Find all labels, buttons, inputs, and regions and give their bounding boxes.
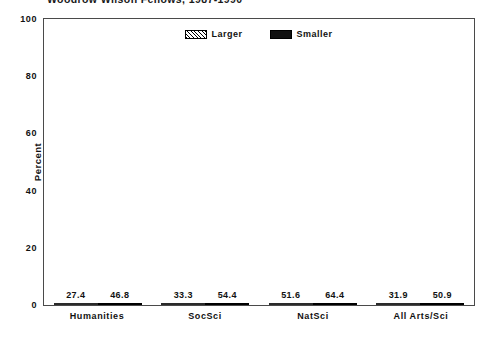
y-axis-tick: 100 [20, 14, 44, 24]
bar-smaller[interactable]: 54.4 [205, 303, 249, 305]
bar-group-natsci: 51.6 64.4 [259, 19, 367, 305]
bar-value-label: 50.9 [433, 290, 452, 300]
y-axis-tick: 0 [31, 300, 44, 310]
y-axis-tick: 60 [26, 128, 44, 138]
bar-group-humanities: 27.4 46.8 [44, 19, 152, 305]
chart-title: Woodrow Wilson Fellows, 1987-1990 [47, 0, 243, 5]
bar-larger[interactable]: 33.3 [161, 303, 205, 305]
bar-groups: 27.4 46.8 33.3 54.4 51.6 [44, 19, 474, 305]
bar-group-socsci: 33.3 54.4 [152, 19, 260, 305]
bar-pair: 31.9 50.9 [376, 303, 464, 305]
bar-value-label: 51.6 [281, 290, 300, 300]
bar-value-label: 64.4 [325, 290, 344, 300]
bar-smaller[interactable]: 46.8 [98, 303, 142, 305]
x-axis-tick-label: NatSci [259, 311, 367, 321]
y-axis-tick: 40 [26, 186, 44, 196]
x-axis-tick-label: SocSci [151, 311, 259, 321]
bar-value-label: 27.4 [66, 290, 85, 300]
y-axis-tick: 20 [26, 243, 44, 253]
bar-pair: 27.4 46.8 [54, 303, 142, 305]
bar-larger[interactable]: 31.9 [376, 303, 420, 305]
bar-pair: 33.3 54.4 [161, 303, 249, 305]
x-axis-tick-label: Humanities [43, 311, 151, 321]
bar-value-label: 31.9 [389, 290, 408, 300]
x-axis-labels: Humanities SocSci NatSci All Arts/Sci [43, 311, 475, 321]
bar-value-label: 46.8 [110, 290, 129, 300]
bar-larger[interactable]: 51.6 [269, 303, 313, 305]
y-axis-tick: 80 [26, 71, 44, 81]
bar-value-label: 54.4 [218, 290, 237, 300]
bar-value-label: 33.3 [174, 290, 193, 300]
x-axis-tick-label: All Arts/Sci [367, 311, 475, 321]
bar-group-all-arts-sci: 31.9 50.9 [367, 19, 475, 305]
plot-area: Percent 0 20 40 60 80 100 Larger Smaller… [43, 18, 475, 306]
bar-larger[interactable]: 27.4 [54, 303, 98, 305]
bar-pair: 51.6 64.4 [269, 303, 357, 305]
bar-smaller[interactable]: 64.4 [313, 303, 357, 305]
bar-smaller[interactable]: 50.9 [420, 303, 464, 305]
y-axis-label: Percent [32, 143, 43, 181]
